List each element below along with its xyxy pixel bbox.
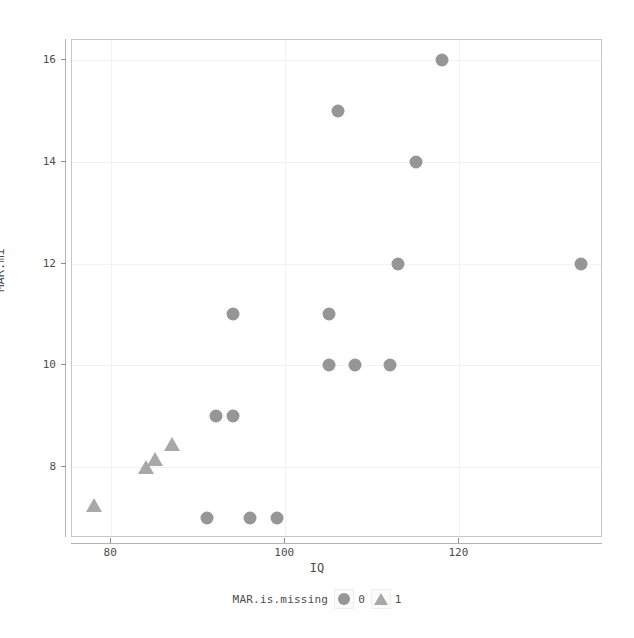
data-point-circle [331, 105, 344, 118]
data-point-circle [270, 511, 283, 524]
y-tick-label: 12 [34, 256, 56, 269]
triangle-marker-icon [374, 593, 388, 605]
y-axis-line [65, 39, 66, 537]
gridline-horizontal [72, 60, 601, 61]
y-tick [61, 59, 66, 60]
data-point-circle [227, 308, 240, 321]
x-tick-label: 100 [274, 546, 294, 559]
x-axis-line [71, 543, 602, 544]
data-point-circle [244, 511, 257, 524]
scatter-plot-figure: 80100120 810121416 IQ MAR.mi MAR.is.miss… [0, 0, 634, 638]
x-tick [284, 538, 285, 543]
y-tick-label: 14 [34, 154, 56, 167]
data-point-triangle [164, 437, 180, 451]
gridline-vertical [111, 40, 112, 536]
data-point-circle [200, 511, 213, 524]
y-tick [61, 161, 66, 162]
x-tick [458, 538, 459, 543]
x-tick [110, 538, 111, 543]
y-tick-label: 10 [34, 358, 56, 371]
legend-key-circle [334, 589, 354, 609]
legend-entry-1[interactable]: 1 [371, 589, 402, 609]
legend-entry-1-label: 1 [395, 593, 402, 606]
x-tick-label: 80 [104, 546, 117, 559]
circle-marker-icon [338, 593, 350, 605]
gridline-horizontal [72, 467, 601, 468]
data-point-circle [209, 410, 222, 423]
gridline-horizontal [72, 264, 601, 265]
data-point-circle [322, 308, 335, 321]
gridline-horizontal [72, 365, 601, 366]
gridline-vertical [459, 40, 460, 536]
plot-panel [71, 39, 602, 537]
data-point-triangle [86, 498, 102, 512]
legend: MAR.is.missing 0 1 [0, 589, 634, 609]
y-tick [61, 263, 66, 264]
legend-key-triangle [371, 589, 391, 609]
x-tick-label: 120 [448, 546, 468, 559]
legend-title: MAR.is.missing [233, 593, 329, 606]
gridline-horizontal [72, 162, 601, 163]
x-axis-title: IQ [0, 561, 634, 575]
y-tick [61, 364, 66, 365]
y-tick [61, 466, 66, 467]
gridline-vertical [285, 40, 286, 536]
legend-entry-0-label: 0 [358, 593, 365, 606]
y-tick-label: 16 [34, 53, 56, 66]
data-point-triangle [147, 452, 163, 466]
legend-entry-0[interactable]: 0 [334, 589, 365, 609]
y-axis-title-text: MAR.mi [0, 248, 7, 327]
data-point-circle [227, 410, 240, 423]
y-tick-label: 8 [34, 459, 56, 472]
